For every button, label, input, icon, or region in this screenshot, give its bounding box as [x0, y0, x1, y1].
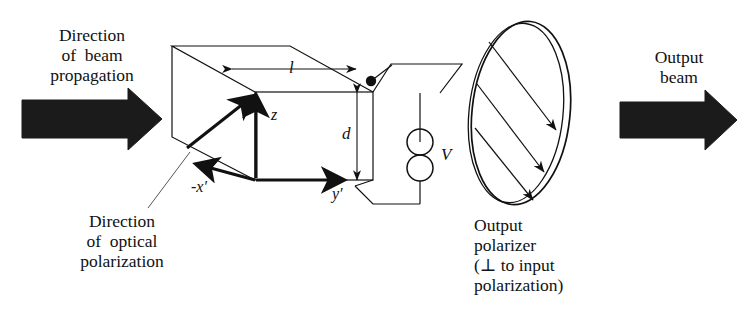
- output-beam-arrow: [620, 90, 737, 150]
- output-beam-caption: Output beam: [655, 48, 704, 88]
- axis-y-prime-label: y′: [332, 185, 343, 203]
- polarizer-caption: Output polarizer (⊥ to input polarizatio…: [474, 216, 563, 296]
- input-beam-arrow: [22, 88, 162, 150]
- length-label: l: [289, 58, 294, 77]
- voltage-label: V: [441, 145, 451, 164]
- thickness-label: d: [342, 124, 351, 143]
- axis-z-label: z: [271, 106, 277, 124]
- input-beam-caption: Direction of beam propagation: [50, 26, 134, 86]
- polarization-vector-arrow: [187, 96, 253, 148]
- axis-minus-x-prime-label: -x′: [191, 178, 207, 196]
- polarization-caption: Direction of optical polarization: [80, 212, 164, 272]
- polarization-leader-line: [148, 152, 190, 208]
- output-polarizer: [460, 16, 579, 209]
